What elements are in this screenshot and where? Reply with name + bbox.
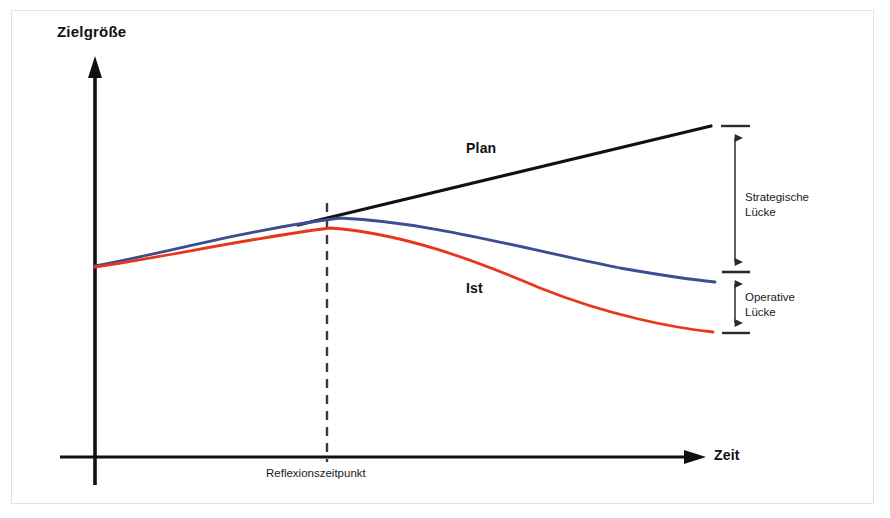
- y-axis: [88, 56, 102, 485]
- operative-luecke-label: Operative Lücke: [745, 290, 795, 319]
- y-axis-label: Zielgröße: [57, 23, 126, 40]
- ist-series-label: Ist: [466, 280, 483, 296]
- reflexionszeitpunkt-label: Reflexionszeitpunkt: [266, 467, 366, 479]
- x-axis: [60, 450, 706, 464]
- plot-canvas: [0, 0, 890, 518]
- x-axis-label: Zeit: [714, 447, 740, 463]
- plan-series-label: Plan: [466, 140, 496, 156]
- x-axis-arrowhead: [684, 450, 706, 464]
- strategische-luecke-label: Strategische Lücke: [745, 190, 809, 219]
- strategic-gap-chart: Zielgröße Zeit Plan Ist Reflexionszeitpu…: [0, 0, 890, 518]
- red-curve: [95, 228, 713, 332]
- plan-line: [298, 126, 711, 225]
- y-axis-arrowhead: [88, 56, 102, 78]
